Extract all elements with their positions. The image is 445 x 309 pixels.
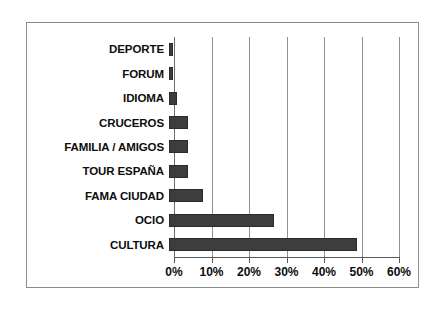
bar xyxy=(169,189,203,202)
x-tick-label: 10% xyxy=(199,265,223,279)
bar xyxy=(169,238,357,251)
bar-track xyxy=(169,208,394,232)
bar xyxy=(169,92,177,105)
category-label: FAMA CIUDAD xyxy=(27,190,169,202)
bar-track xyxy=(169,233,394,257)
x-tick xyxy=(287,257,288,263)
x-tick-label: 0% xyxy=(165,265,182,279)
category-label: DEPORTE xyxy=(27,43,169,55)
x-tick xyxy=(399,257,400,263)
x-tick xyxy=(174,257,175,263)
bar-track xyxy=(169,110,394,134)
bar-row: FORUM xyxy=(27,61,420,85)
bar-row: FAMA CIUDAD xyxy=(27,184,420,208)
chart-frame: DEPORTEFORUMIDIOMACRUCEROSFAMILIA / AMIG… xyxy=(26,22,419,288)
category-label: IDIOMA xyxy=(27,92,169,104)
bar xyxy=(169,116,188,129)
bar-row: IDIOMA xyxy=(27,86,420,110)
x-tick xyxy=(324,257,325,263)
x-tick-label: 50% xyxy=(349,265,373,279)
bar xyxy=(169,43,173,56)
bar xyxy=(169,140,188,153)
bar-track xyxy=(169,135,394,159)
bar-row: FAMILIA / AMIGOS xyxy=(27,135,420,159)
x-axis-tick-labels: 0%10%20%30%40%50%60% xyxy=(174,265,419,285)
x-tick-label: 40% xyxy=(312,265,336,279)
bar-row: DEPORTE xyxy=(27,37,420,61)
x-tick-label: 60% xyxy=(387,265,411,279)
category-label: OCIO xyxy=(27,214,169,226)
category-label: TOUR ESPAÑA xyxy=(27,165,169,177)
category-label: FAMILIA / AMIGOS xyxy=(27,141,169,153)
x-tick xyxy=(212,257,213,263)
bar xyxy=(169,165,188,178)
bar xyxy=(169,67,173,80)
bar-track xyxy=(169,37,394,61)
x-tick-label: 30% xyxy=(274,265,298,279)
bar-track xyxy=(169,61,394,85)
x-tick-label: 20% xyxy=(237,265,261,279)
bar-rows: DEPORTEFORUMIDIOMACRUCEROSFAMILIA / AMIG… xyxy=(27,37,420,257)
category-label: CULTURA xyxy=(27,239,169,251)
bar-row: CULTURA xyxy=(27,233,420,257)
category-label: CRUCEROS xyxy=(27,117,169,129)
bar-row: CRUCEROS xyxy=(27,110,420,134)
x-tick xyxy=(362,257,363,263)
category-label: FORUM xyxy=(27,68,169,80)
x-tick xyxy=(249,257,250,263)
bar-track xyxy=(169,86,394,110)
bar-row: TOUR ESPAÑA xyxy=(27,159,420,183)
bar xyxy=(169,214,274,227)
bar-track xyxy=(169,184,394,208)
bar-row: OCIO xyxy=(27,208,420,232)
bar-track xyxy=(169,159,394,183)
